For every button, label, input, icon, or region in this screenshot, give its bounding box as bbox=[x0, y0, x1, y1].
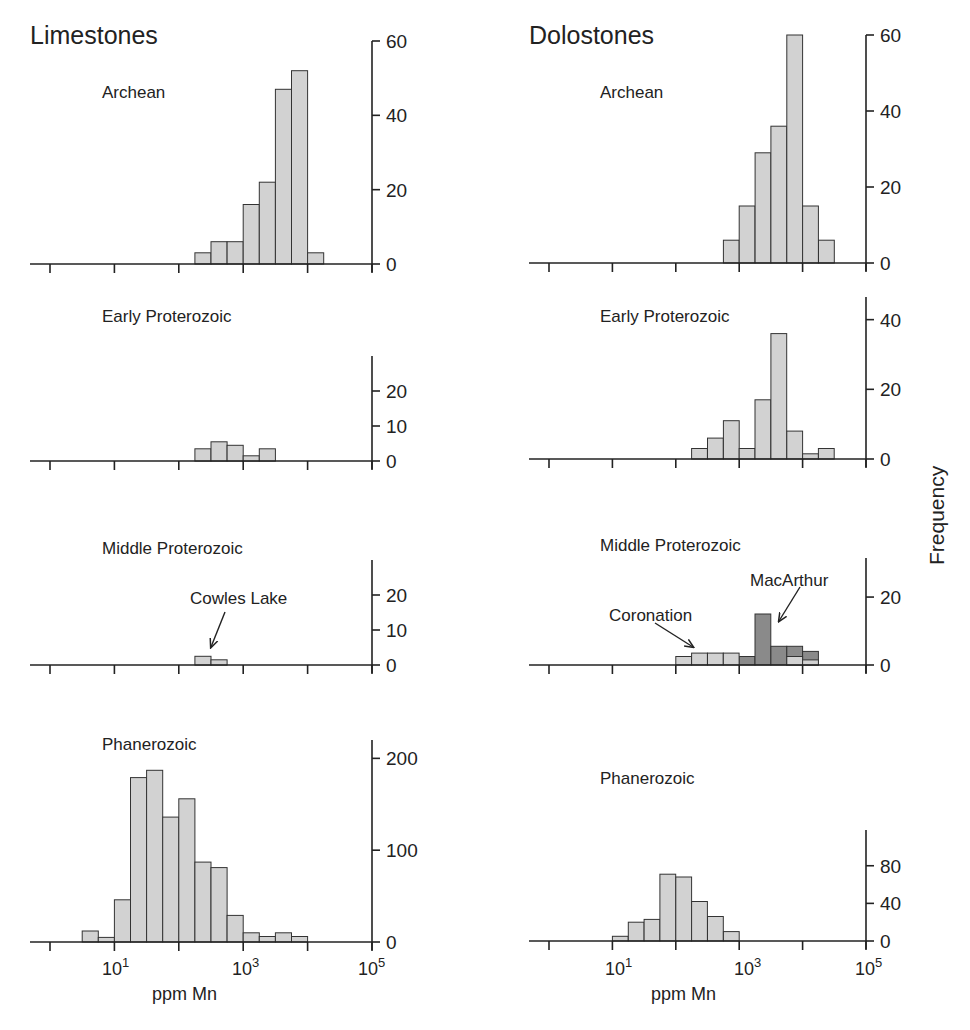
histogram-bar bbox=[755, 614, 771, 665]
histogram-bar bbox=[227, 445, 243, 461]
histogram-bar bbox=[147, 770, 163, 942]
x-tick-label: 103 bbox=[232, 955, 259, 979]
histogram-bar bbox=[227, 242, 243, 264]
histogram-bar bbox=[818, 449, 834, 460]
y-tick-label: 10 bbox=[386, 416, 407, 437]
histogram-bar bbox=[195, 656, 211, 665]
y-tick-label: 0 bbox=[386, 451, 397, 472]
y-tick-label: 20 bbox=[880, 177, 901, 198]
annotation-label: Coronation bbox=[609, 606, 692, 625]
histogram-bar bbox=[259, 182, 275, 264]
histogram-bar bbox=[787, 35, 803, 263]
panel-label: Phanerozoic bbox=[600, 769, 695, 788]
y-tick-label: 20 bbox=[880, 587, 901, 608]
histogram-bar bbox=[259, 449, 275, 461]
histogram-bar bbox=[195, 862, 211, 942]
panel-ls-ph: Phanerozoic0100200 bbox=[30, 735, 418, 953]
x-tick-labels-limestones: 101 103 105 ppm Mn bbox=[102, 955, 385, 1004]
histogram-bar bbox=[644, 919, 660, 941]
y-tick-label: 100 bbox=[386, 840, 418, 861]
histogram-bar bbox=[723, 240, 739, 263]
y-tick-label: 0 bbox=[880, 253, 891, 274]
y-tick-label: 20 bbox=[386, 180, 407, 201]
histogram-bar bbox=[292, 71, 308, 264]
histogram-bar bbox=[787, 431, 803, 459]
histogram-bar bbox=[723, 421, 739, 459]
histogram-bar bbox=[243, 933, 259, 942]
panel-do-ep: Early Proterozoic02040 bbox=[529, 297, 901, 470]
panel-label: Middle Proterozoic bbox=[102, 539, 243, 558]
x-tick-labels-dolostones: 101 103 105 ppm Mn bbox=[605, 955, 882, 1004]
histogram-bar bbox=[179, 799, 195, 942]
x-axis-label-dolostones: ppm Mn bbox=[651, 984, 716, 1004]
histogram-bar bbox=[211, 242, 227, 264]
y-tick-label: 40 bbox=[880, 893, 901, 914]
histogram-bar bbox=[243, 205, 259, 265]
x-tick-label: 101 bbox=[605, 955, 632, 979]
histogram-bar bbox=[771, 646, 787, 665]
histogram-bar bbox=[275, 89, 291, 264]
y-tick-label: 200 bbox=[386, 748, 418, 769]
histogram-bar bbox=[755, 400, 771, 459]
annotations: Cowles LakeCoronationMacArthur bbox=[190, 571, 829, 647]
y-tick-label: 0 bbox=[386, 254, 397, 275]
y-tick-label: 0 bbox=[880, 931, 891, 952]
histogram-bar bbox=[163, 817, 179, 942]
histogram-bar bbox=[708, 917, 724, 942]
y-tick-label: 0 bbox=[386, 932, 397, 953]
arrow-icon bbox=[655, 623, 693, 647]
panel-label: Archean bbox=[600, 83, 663, 102]
histogram-bar bbox=[308, 253, 324, 264]
x-tick-label: 105 bbox=[358, 955, 385, 979]
histogram-bar bbox=[787, 657, 803, 666]
histogram-bar bbox=[739, 657, 755, 666]
y-tick-label: 40 bbox=[386, 105, 407, 126]
histogram-bar bbox=[628, 922, 644, 941]
histogram-bar bbox=[803, 206, 819, 263]
panel-label: Archean bbox=[102, 83, 165, 102]
histogram-bar bbox=[708, 438, 724, 459]
y-tick-label: 20 bbox=[386, 585, 407, 606]
y-tick-label: 0 bbox=[880, 655, 891, 676]
panel-ls-ep: Early Proterozoic01020 bbox=[30, 307, 407, 472]
y-tick-label: 20 bbox=[386, 381, 407, 402]
arrow-icon bbox=[211, 612, 225, 647]
histogram-bar bbox=[275, 933, 291, 942]
histogram-bar bbox=[692, 902, 708, 942]
histogram-bar bbox=[195, 449, 211, 461]
histogram-bar bbox=[723, 932, 739, 941]
histogram-bar bbox=[259, 937, 275, 943]
histogram-bar bbox=[771, 334, 787, 459]
x-tick-label: 103 bbox=[734, 955, 761, 979]
histogram-bar bbox=[692, 449, 708, 460]
column-title-dolostones: Dolostones bbox=[529, 21, 654, 49]
histogram-bar bbox=[739, 449, 755, 460]
panel-label: Early Proterozoic bbox=[600, 307, 730, 326]
panel-do-mp: Middle Proterozoic020 bbox=[529, 536, 901, 676]
panel-do-arch: Archean0204060 bbox=[529, 25, 901, 274]
annotation-label: Cowles Lake bbox=[190, 589, 287, 608]
arrow-icon bbox=[779, 587, 800, 621]
histogram-bar bbox=[723, 653, 739, 665]
x-tick-label: 105 bbox=[855, 955, 882, 979]
mn-histogram-figure: Limestones Dolostones Frequency Archean0… bbox=[0, 0, 970, 1030]
annotation-label: MacArthur bbox=[750, 571, 829, 590]
histogram-bar bbox=[708, 653, 724, 665]
histogram-bar bbox=[292, 937, 308, 943]
column-title-limestones: Limestones bbox=[30, 21, 158, 49]
histogram-panels: Archean0204060Archean0204060Early Proter… bbox=[30, 25, 901, 953]
panel-label: Phanerozoic bbox=[102, 735, 197, 754]
histogram-bar bbox=[211, 868, 227, 942]
histogram-bar bbox=[692, 653, 708, 665]
y-tick-label: 40 bbox=[880, 310, 901, 331]
histogram-bar bbox=[676, 657, 692, 666]
y-tick-label: 60 bbox=[386, 31, 407, 52]
panel-ls-arch: Archean0204060 bbox=[30, 31, 407, 275]
y-tick-label: 10 bbox=[386, 620, 407, 641]
panel-do-ph: Phanerozoic04080 bbox=[529, 769, 901, 952]
histogram-bar bbox=[771, 126, 787, 263]
histogram-bar bbox=[82, 931, 98, 942]
histogram-bar bbox=[819, 240, 835, 263]
y-axis-label: Frequency bbox=[925, 465, 948, 565]
x-tick-label: 101 bbox=[102, 955, 129, 979]
